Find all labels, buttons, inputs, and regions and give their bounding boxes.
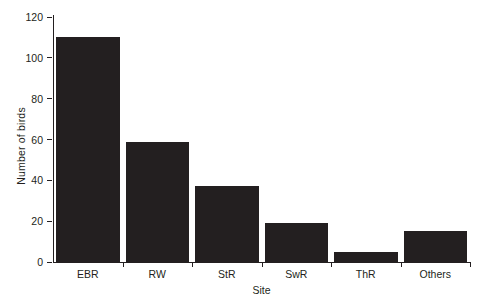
x-tick-label: SwR <box>262 268 332 280</box>
y-tick-mark <box>47 17 52 18</box>
x-tick-mark <box>262 262 263 267</box>
bar <box>56 37 120 262</box>
y-tick-label: 0 <box>0 255 43 269</box>
bar <box>404 231 468 262</box>
y-tick-label: 100 <box>0 51 43 65</box>
x-tick-mark <box>470 262 471 267</box>
y-tick-mark <box>47 57 52 58</box>
x-tick-label: EBR <box>53 268 123 280</box>
x-tick-label: StR <box>192 268 262 280</box>
x-tick-mark <box>123 262 124 267</box>
bar-chart: Number of birds 020406080100120 EBRRWStR… <box>0 0 486 303</box>
y-tick-label: 60 <box>0 133 43 147</box>
y-tick-mark <box>47 180 52 181</box>
x-tick-mark <box>401 262 402 267</box>
plot-area <box>53 17 470 262</box>
bar <box>195 186 259 262</box>
y-tick-label: 80 <box>0 92 43 106</box>
x-tick-label: RW <box>123 268 193 280</box>
y-tick-mark <box>47 139 52 140</box>
y-tick-label: 40 <box>0 173 43 187</box>
x-tick-label: ThR <box>331 268 401 280</box>
x-tick-mark <box>331 262 332 267</box>
y-tick-mark <box>47 262 52 263</box>
y-tick-mark <box>47 98 52 99</box>
y-tick-mark <box>47 221 52 222</box>
x-axis-title: Site <box>53 284 470 296</box>
y-tick-label: 120 <box>0 10 43 24</box>
y-tick-label: 20 <box>0 214 43 228</box>
x-tick-mark <box>192 262 193 267</box>
bar <box>265 223 329 262</box>
bar <box>334 252 398 262</box>
bar <box>126 142 190 262</box>
x-tick-label: Others <box>401 268 471 280</box>
